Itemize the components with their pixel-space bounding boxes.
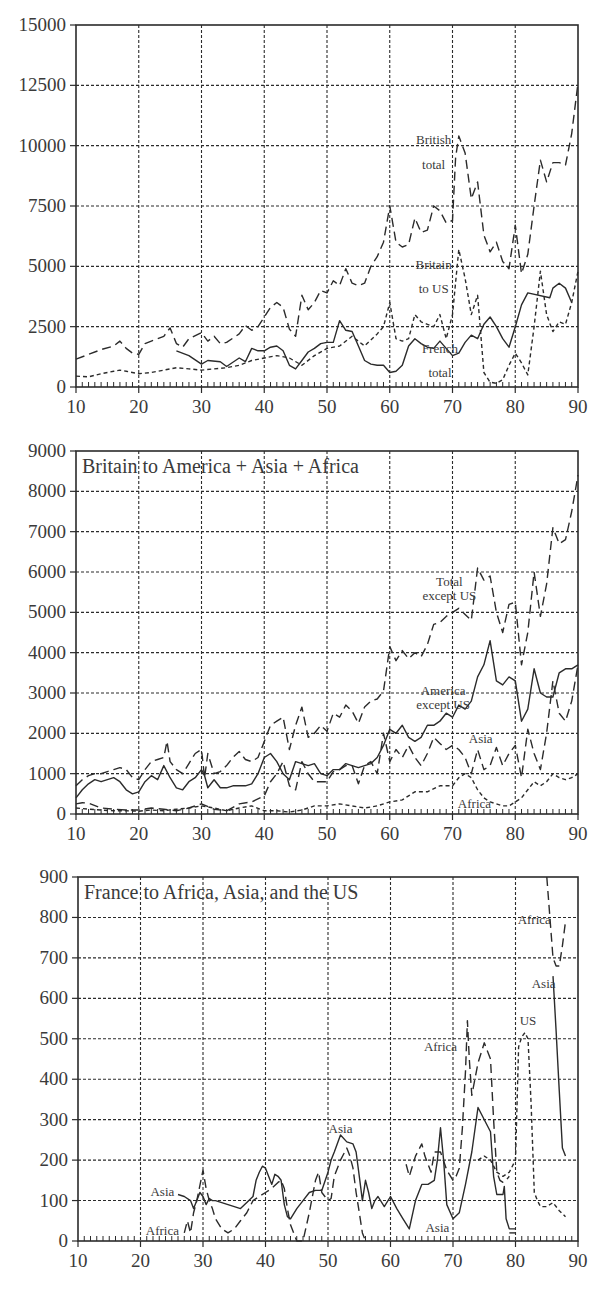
y-tick-label: 8000 xyxy=(28,480,66,501)
chart-panel-2-britain-destinations: 1020304050607080900100020003000400050006… xyxy=(28,440,588,844)
x-tick-label: 40 xyxy=(255,396,274,417)
series-annotation: Britain xyxy=(416,257,453,272)
x-tick-label: 50 xyxy=(318,823,337,844)
series-annotation: British xyxy=(416,132,452,147)
x-tick-label: 70 xyxy=(443,396,462,417)
x-tick-label: 90 xyxy=(569,1250,588,1271)
y-tick-label: 12500 xyxy=(19,74,67,95)
x-tick-label: 10 xyxy=(67,396,86,417)
x-tick-label: 80 xyxy=(506,1250,525,1271)
y-tick-label: 3000 xyxy=(28,682,66,703)
y-tick-label: 0 xyxy=(59,1230,69,1251)
series-annotation: Asia xyxy=(425,1220,449,1235)
y-tick-label: 5000 xyxy=(28,255,66,276)
x-tick-label: 30 xyxy=(194,1250,213,1271)
x-tick-label: 10 xyxy=(67,823,86,844)
y-tick-label: 2000 xyxy=(28,722,66,743)
x-axis-minor-ticks xyxy=(72,877,578,1247)
series-annotation: except US xyxy=(416,697,470,712)
x-tick-label: 10 xyxy=(69,1250,88,1271)
y-tick-label: 7500 xyxy=(28,195,66,216)
series-annotation: Africa xyxy=(518,912,551,927)
series-annotation: Africa xyxy=(458,796,491,811)
series-annotation: French xyxy=(422,341,459,356)
x-tick-label: 50 xyxy=(319,1250,338,1271)
y-tick-label: 9000 xyxy=(28,440,66,461)
y-tick-label: 0 xyxy=(57,803,67,824)
x-tick-label: 80 xyxy=(506,823,525,844)
y-tick-label: 300 xyxy=(40,1109,69,1130)
chart-panel-1-totals: 1020304050607080900250050007500100001250… xyxy=(19,14,588,417)
x-tick-label: 90 xyxy=(569,396,588,417)
chart-canvas: 1020304050607080900250050007500100001250… xyxy=(0,0,606,1300)
chart-panel-3-france-destinations: 1020304050607080900100200300400500600700… xyxy=(40,866,588,1271)
x-tick-label: 80 xyxy=(506,396,525,417)
series-line-africa-1960s-70s xyxy=(406,1021,509,1183)
series-annotation: Asia xyxy=(532,976,556,991)
x-tick-label: 90 xyxy=(569,823,588,844)
y-tick-label: 2500 xyxy=(28,316,66,337)
y-tick-label: 6000 xyxy=(28,561,66,582)
series-annotation: US xyxy=(520,1013,537,1028)
x-tick-label: 60 xyxy=(380,823,399,844)
y-tick-label: 500 xyxy=(40,1028,69,1049)
y-tick-label: 1000 xyxy=(28,763,66,784)
y-tick-label: 15000 xyxy=(19,14,67,35)
y-axis-labels: 0100200300400500600700800900 xyxy=(40,866,69,1251)
y-tick-label: 100 xyxy=(40,1190,69,1211)
series-annotation: Africa xyxy=(424,1039,457,1054)
figure: 1020304050607080900250050007500100001250… xyxy=(0,0,606,1300)
y-tick-label: 900 xyxy=(40,866,69,887)
series-annotation: total xyxy=(428,365,451,380)
series-annotation: America xyxy=(421,683,466,698)
x-tick-label: 20 xyxy=(129,823,148,844)
series-annotations: AsiaAfricaAsiaAsiaAfricaUSAfricaAsia xyxy=(146,912,556,1238)
x-tick-label: 60 xyxy=(380,396,399,417)
x-axis-labels: 102030405060708090 xyxy=(67,396,588,417)
series-annotation: Africa xyxy=(146,1223,179,1238)
series-annotation: total xyxy=(422,157,445,172)
x-tick-label: 40 xyxy=(255,823,274,844)
panel-title: France to Africa, Asia, and the US xyxy=(84,881,358,903)
y-tick-label: 600 xyxy=(40,987,69,1008)
y-tick-label: 800 xyxy=(40,906,69,927)
series-line-us xyxy=(478,1033,566,1217)
x-axis-labels: 102030405060708090 xyxy=(67,823,588,844)
y-tick-label: 0 xyxy=(57,376,67,397)
x-tick-label: 20 xyxy=(129,396,148,417)
series-annotation: Total xyxy=(436,574,463,589)
series-line-africa xyxy=(184,1148,365,1241)
x-tick-label: 20 xyxy=(131,1250,150,1271)
series-line-asia-late-segment xyxy=(553,976,566,1156)
x-tick-label: 30 xyxy=(192,823,211,844)
y-tick-label: 400 xyxy=(40,1068,69,1089)
x-tick-label: 60 xyxy=(381,1250,400,1271)
x-tick-label: 40 xyxy=(256,1250,275,1271)
x-tick-label: 70 xyxy=(444,1250,463,1271)
y-tick-label: 700 xyxy=(40,947,69,968)
series-line-america-except-us xyxy=(76,641,578,798)
series-annotation: to US xyxy=(419,281,449,296)
series-annotation: Asia xyxy=(329,1121,353,1136)
y-axis-labels: 0100020003000400050006000700080009000 xyxy=(28,440,66,824)
y-tick-label: 10000 xyxy=(19,135,67,156)
y-tick-label: 5000 xyxy=(28,601,66,622)
y-tick-label: 200 xyxy=(40,1149,69,1170)
x-tick-label: 50 xyxy=(318,396,337,417)
series-annotation: Asia xyxy=(150,1184,174,1199)
series-annotation: Asia xyxy=(469,731,493,746)
series-line-french-total xyxy=(176,283,571,372)
y-axis-labels: 0250050007500100001250015000 xyxy=(19,14,67,397)
x-tick-label: 30 xyxy=(192,396,211,417)
x-tick-label: 70 xyxy=(443,823,462,844)
series-annotation: except US xyxy=(422,588,476,603)
x-axis-labels: 102030405060708090 xyxy=(69,1250,588,1271)
grid xyxy=(76,25,578,387)
y-tick-label: 7000 xyxy=(28,521,66,542)
series-group xyxy=(178,877,566,1241)
panel-title: Britain to America + Asia + Africa xyxy=(82,455,359,477)
y-tick-label: 4000 xyxy=(28,642,66,663)
